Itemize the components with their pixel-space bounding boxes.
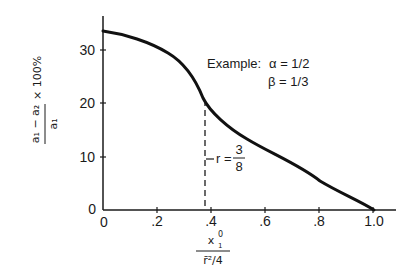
chart: 30 20 10 0 0 .2 .4 .6 .8 1.0 r = 3 8 Exa…	[0, 0, 415, 273]
r-fraction-denominator: 8	[235, 159, 242, 174]
x-tick-label-0.2: .2	[151, 213, 163, 229]
y-tick-label-10: 10	[79, 149, 95, 165]
x-axis-label: x 0 1 r̄²/4	[196, 230, 230, 267]
x-tick-label-1.0: 1.0	[364, 213, 384, 229]
x-tick-label-0.4: .4	[205, 213, 217, 229]
y-label-numerator: a₁ − a₂	[29, 105, 42, 144]
y-tick-label-20: 20	[79, 95, 95, 111]
x-label-superscript: 0	[218, 230, 223, 239]
x-tick-label-0.8: .8	[313, 213, 325, 229]
alpha-value: α = 1/2	[269, 56, 309, 71]
y-tick-label-30: 30	[79, 42, 95, 58]
y-axis-label: a₁ − a₂ a₁ × 100%	[29, 56, 60, 144]
x-label-denominator: r̄²/4	[203, 254, 223, 267]
y-label-multiplier: × 100%	[31, 56, 44, 100]
y-tick-label-0: 0	[88, 201, 96, 217]
x-label-numerator: x	[208, 234, 215, 247]
r-fraction-numerator: 3	[235, 142, 242, 157]
y-label-denominator: a₁	[47, 118, 60, 129]
x-label-subscript: 1	[218, 242, 222, 250]
x-tick-label-0: 0	[100, 214, 108, 230]
x-tick-label-0.6: .6	[259, 213, 271, 229]
example-label: Example:	[207, 56, 261, 71]
r-label: r =	[216, 151, 232, 166]
beta-value: β = 1/3	[268, 74, 308, 89]
